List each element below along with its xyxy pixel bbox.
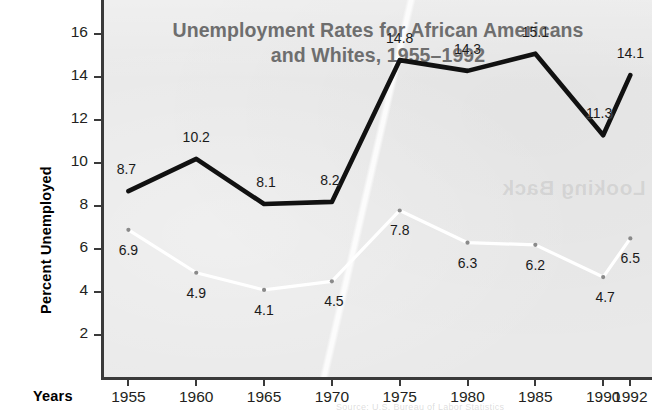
y-axis-line xyxy=(101,0,104,379)
y-axis-tick: 12 xyxy=(94,119,102,121)
y-axis-tick: 16 xyxy=(94,33,102,35)
data-point-marker xyxy=(126,228,130,232)
x-axis-tick xyxy=(629,378,631,386)
y-axis-tick-label: 8 xyxy=(79,195,88,213)
data-point-marker xyxy=(628,236,632,240)
x-axis-tick xyxy=(399,378,401,386)
y-axis-tick-label: 12 xyxy=(71,109,88,127)
y-axis-tick-label: 14 xyxy=(71,66,88,84)
plot-area: Looking Back Unemployment Rates for Afri… xyxy=(104,0,652,378)
y-axis-tick-label: 4 xyxy=(79,281,88,299)
y-axis-tick: 8 xyxy=(94,205,102,207)
x-axis-tick xyxy=(467,378,469,386)
footer-bleed-text: Source: U.S. Bureau of Labor Statistics xyxy=(336,402,504,412)
series-layer xyxy=(104,0,652,378)
y-axis-tick: 2 xyxy=(94,334,102,336)
y-axis-tick-label: 10 xyxy=(71,152,88,170)
data-point-marker xyxy=(533,243,537,247)
x-axis-tick xyxy=(331,378,333,386)
data-point-marker xyxy=(330,279,334,283)
x-axis-tick xyxy=(195,378,197,386)
data-point-marker xyxy=(262,288,266,292)
series-line-african-americans xyxy=(128,54,630,204)
data-point-marker xyxy=(601,275,605,279)
y-axis-tick-label: 16 xyxy=(71,23,88,41)
y-axis-tick-label: 6 xyxy=(79,238,88,256)
x-axis-tick xyxy=(263,378,265,386)
x-axis-tick-label: 1985 xyxy=(518,388,552,406)
x-axis-tick-label: 1960 xyxy=(179,388,213,406)
y-axis-tick-label: 2 xyxy=(79,324,88,342)
x-axis-tick xyxy=(602,378,604,386)
x-axis-line xyxy=(101,377,652,380)
x-axis-tick xyxy=(534,378,536,386)
chart-figure: Looking Back Unemployment Rates for Afri… xyxy=(0,0,662,413)
x-axis-tick-label: 1965 xyxy=(247,388,281,406)
y-axis-tick: 4 xyxy=(94,291,102,293)
data-point-marker xyxy=(194,271,198,275)
series-line-whites xyxy=(128,210,630,289)
x-axis-title: Years xyxy=(33,388,73,404)
y-axis-title: Percent Unemployed xyxy=(38,160,54,320)
y-axis-tick: 14 xyxy=(94,76,102,78)
y-axis-tick: 6 xyxy=(94,248,102,250)
x-axis-tick xyxy=(127,378,129,386)
x-axis-tick-label: 1992 xyxy=(613,388,647,406)
y-axis-tick: 10 xyxy=(94,162,102,164)
x-axis-tick-label: 1955 xyxy=(111,388,145,406)
data-point-marker xyxy=(465,241,469,245)
data-point-marker xyxy=(398,208,402,212)
